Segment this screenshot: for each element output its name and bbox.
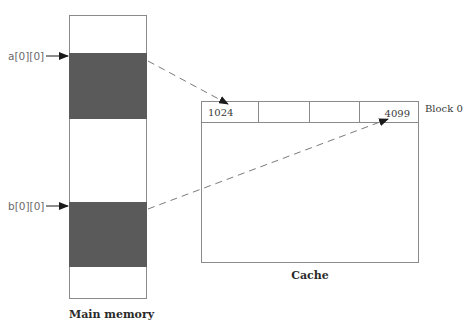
arrows-layer <box>0 0 471 331</box>
cache-mapping-diagram: a[0][0] b[0][0] Main memory 1024 4099 Bl… <box>0 0 471 331</box>
mapping-arrow-b-to-4099 <box>148 119 388 209</box>
mapping-arrow-a-to-1024 <box>148 61 228 104</box>
